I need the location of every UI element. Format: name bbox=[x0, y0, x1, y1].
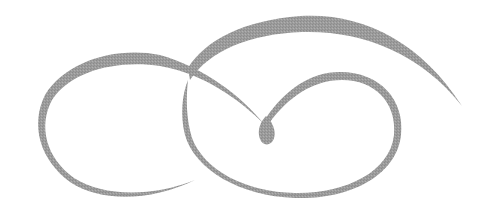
flourish-ornament bbox=[0, 0, 492, 215]
teardrop-shape bbox=[259, 116, 275, 144]
right-loop-stroke bbox=[182, 72, 401, 198]
flourish-svg bbox=[0, 0, 492, 215]
left-loop-stroke bbox=[38, 53, 265, 197]
